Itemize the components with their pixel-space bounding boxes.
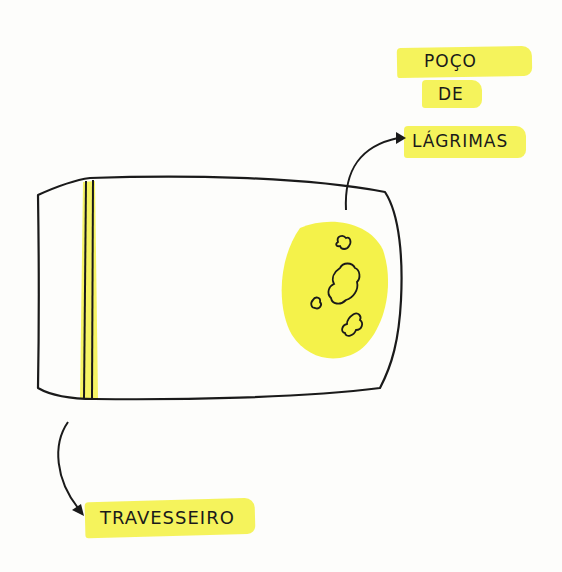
arrowhead-icon [72,504,84,516]
illustration-canvas: POÇO DE LÁGRIMAS TRAVESSEIRO [0,0,562,572]
curved-arrow-icon [58,422,78,508]
arrowhead-icon [396,132,406,144]
pillow-seam-right [92,180,93,398]
tear-puddle [282,222,388,359]
pillow-drawing [0,0,562,572]
label-lagrimas: LÁGRIMAS [412,131,508,151]
label-poco: POÇO [424,51,477,71]
label-de: DE [438,84,464,104]
pillow-stripe-highlight [80,181,98,399]
label-travesseiro: TRAVESSEIRO [100,507,235,528]
